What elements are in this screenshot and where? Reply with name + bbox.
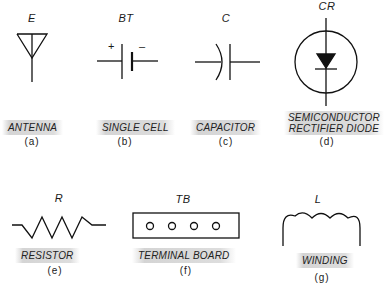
label-winding: WINDING [296,253,354,268]
sub-label-e: (e) [35,265,75,276]
sub-label-g: (g) [302,272,342,283]
sub-label-f: (f) [166,265,206,276]
winding-icon [0,0,369,260]
